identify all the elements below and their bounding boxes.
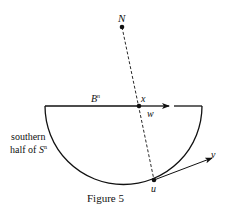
label-southern: southern	[11, 131, 45, 142]
label-x: x	[140, 93, 146, 104]
label-N: N	[117, 12, 126, 24]
label-v: v	[211, 149, 216, 160]
vector-v-arrow	[154, 158, 212, 180]
label-u: u	[151, 183, 156, 194]
stereographic-projection-diagram: N Bn x w u v southern half of Sn Figure …	[0, 0, 225, 214]
label-w: w	[147, 108, 154, 119]
label-B-n: Bn	[91, 93, 100, 104]
projection-line-dashed	[122, 27, 154, 180]
figure-caption: Figure 5	[87, 192, 124, 204]
southern-hemisphere-arc	[45, 106, 202, 185]
point-u	[152, 178, 157, 183]
figure-5: N Bn x w u v southern half of Sn Figure …	[0, 0, 225, 214]
point-N	[120, 25, 125, 30]
label-half-of-S-n: half of Sn	[10, 144, 47, 155]
point-x	[137, 104, 142, 109]
